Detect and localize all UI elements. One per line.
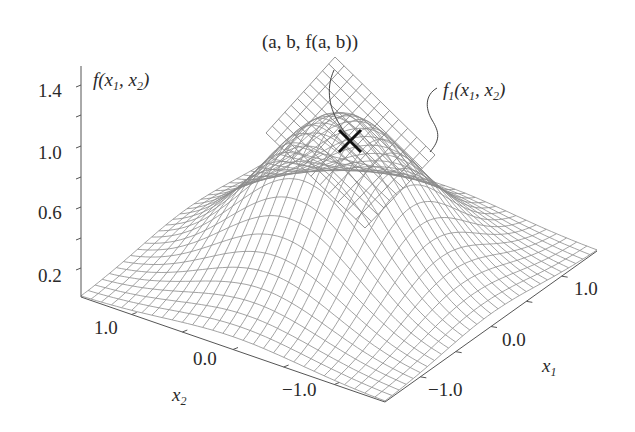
z-tick-label: 1.4	[38, 81, 62, 100]
x2-tick-label: −1.0	[282, 380, 316, 399]
surface-label: f1(x1, x2)	[443, 80, 505, 99]
z-sep: , x	[119, 69, 137, 90]
z-args: (x	[98, 69, 113, 90]
x1-tick-label: −1.0	[428, 380, 462, 399]
x2-sub: 2	[180, 394, 186, 408]
x1-axis-label: x1	[542, 356, 556, 375]
x2-tick-label: 1.0	[94, 318, 118, 337]
x2-axis-label: x2	[172, 385, 186, 404]
z-tick-label: 1.0	[38, 143, 62, 162]
x1-sub: 1	[550, 365, 556, 379]
surface-leader-line	[427, 88, 438, 152]
surface-args: (x	[454, 79, 469, 100]
point-label-text: (a, b, f(a, b))	[262, 31, 358, 52]
z-close: )	[143, 69, 149, 90]
x1-tick-label: 1.0	[574, 279, 598, 298]
x1-tick-label: 0.0	[502, 330, 526, 349]
x2-tick-label: 0.0	[193, 349, 217, 368]
surface-sep: , x	[475, 79, 493, 100]
z-axis-label: f(x1, x2)	[93, 70, 149, 89]
z-tick-label: 0.6	[38, 203, 62, 222]
surface-plot	[0, 0, 635, 432]
surface-mesh	[81, 112, 597, 401]
point-label: (a, b, f(a, b))	[262, 32, 358, 51]
z-tick-label: 0.2	[38, 266, 62, 285]
surface-close: )	[499, 79, 505, 100]
axes	[76, 66, 597, 402]
figure: (a, b, f(a, b)) f1(x1, x2) f(x1, x2) 1.4…	[0, 0, 635, 432]
